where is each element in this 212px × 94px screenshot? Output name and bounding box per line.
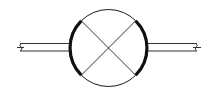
symbol-svg	[0, 0, 212, 94]
right-pipe-break-mark	[193, 44, 201, 52]
diagram-canvas: Circle with X (crossed lines) and thicke…	[0, 0, 212, 94]
right-pipe	[146, 44, 201, 52]
left-pipe	[17, 44, 71, 52]
left-pipe-break-mark	[17, 44, 24, 52]
